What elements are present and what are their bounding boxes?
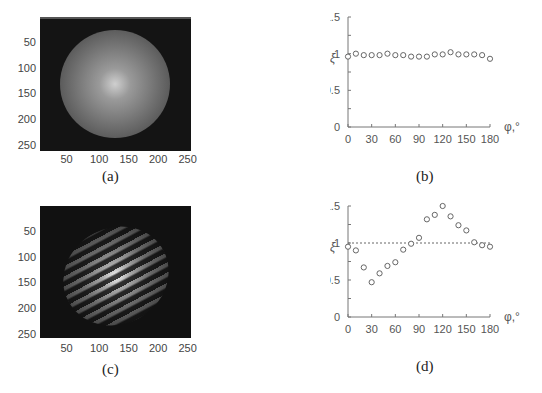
y-axis-label: ξ xyxy=(330,51,336,65)
y-tick-label: 0.5 xyxy=(330,274,340,286)
x-tick-label: 150 xyxy=(457,133,475,145)
chart-b: 00.511.50306090120150180φ,°ξ xyxy=(330,0,542,196)
caption-a: (a) xyxy=(102,168,119,185)
y-tick-label: 150 xyxy=(18,87,36,99)
data-point xyxy=(401,247,406,252)
data-point xyxy=(385,263,390,268)
intensity-image-a xyxy=(40,17,191,151)
caption-d: (d) xyxy=(416,358,434,375)
x-tick-label: 90 xyxy=(413,323,425,335)
data-point xyxy=(345,244,350,249)
data-point xyxy=(448,50,453,55)
y-tick-label: 0.5 xyxy=(330,84,340,96)
chart-d: 00.511.50306090120150180φ,°ξ xyxy=(330,190,542,393)
data-point xyxy=(472,240,477,245)
x-tick-label: 90 xyxy=(413,133,425,145)
x-tick-label: 120 xyxy=(433,133,451,145)
x-tick-label: 120 xyxy=(433,323,451,335)
data-point xyxy=(464,228,469,233)
y-tick-label: 100 xyxy=(18,251,36,263)
data-point xyxy=(385,51,390,56)
y-tick-label: 1.5 xyxy=(330,200,340,212)
data-point xyxy=(377,53,382,58)
bright-disk xyxy=(60,30,170,138)
y-axis-label: ξ xyxy=(330,240,336,254)
data-point xyxy=(432,212,437,217)
data-point xyxy=(361,53,366,58)
x-tick-label: 60 xyxy=(389,133,401,145)
data-point xyxy=(487,244,492,249)
y-tick-label: 250 xyxy=(18,328,36,340)
data-point xyxy=(393,53,398,58)
data-point xyxy=(480,53,485,58)
data-point xyxy=(424,217,429,222)
data-point xyxy=(432,52,437,57)
x-tick-label: 100 xyxy=(90,342,108,354)
x-axis-label: φ,° xyxy=(504,120,520,134)
data-point xyxy=(448,214,453,219)
fringe-disk xyxy=(46,208,186,338)
x-tick-label: 150 xyxy=(119,342,137,354)
data-point xyxy=(393,260,398,265)
y-tick-label: 0 xyxy=(334,311,340,323)
y-tick-label: 0 xyxy=(334,121,340,133)
data-point xyxy=(472,52,477,57)
data-point xyxy=(401,53,406,58)
data-point xyxy=(369,280,374,285)
data-point xyxy=(353,248,358,253)
data-point xyxy=(424,54,429,59)
x-axis-label: φ,° xyxy=(504,310,520,324)
y-tick-label: 100 xyxy=(18,62,36,74)
data-point xyxy=(377,271,382,276)
intensity-image-c xyxy=(40,206,191,338)
x-tick-label: 0 xyxy=(345,133,351,145)
panel-c: 50100150200250 50100150200250 (c) xyxy=(0,196,271,393)
data-point xyxy=(416,54,421,59)
x-tick-label: 30 xyxy=(366,323,378,335)
x-tick-label: 200 xyxy=(149,153,167,165)
x-tick-label: 50 xyxy=(60,342,72,354)
data-point xyxy=(440,52,445,57)
x-tick-label: 250 xyxy=(178,153,196,165)
y-tick-label: 1.5 xyxy=(330,11,340,23)
x-tick-label: 250 xyxy=(178,342,196,354)
data-point xyxy=(409,54,414,59)
data-point xyxy=(456,223,461,228)
caption-c: (c) xyxy=(102,361,119,378)
x-tick-label: 30 xyxy=(366,133,378,145)
x-tick-label: 180 xyxy=(481,323,499,335)
data-point xyxy=(464,52,469,57)
data-point xyxy=(416,235,421,240)
x-tick-label: 0 xyxy=(345,323,351,335)
caption-b: (b) xyxy=(416,168,434,185)
panel-a: 50100150200250 50100150200250 (a) xyxy=(0,0,271,196)
x-tick-label: 50 xyxy=(60,153,72,165)
data-point xyxy=(456,52,461,57)
y-tick-label: 50 xyxy=(24,36,36,48)
x-tick-label: 150 xyxy=(457,323,475,335)
data-point xyxy=(440,203,445,208)
data-point xyxy=(480,243,485,248)
x-tick-label: 60 xyxy=(389,323,401,335)
y-tick-label: 250 xyxy=(18,139,36,151)
data-point xyxy=(353,51,358,56)
x-tick-label: 180 xyxy=(481,133,499,145)
data-point xyxy=(409,241,414,246)
data-point xyxy=(361,265,366,270)
y-tick-label: 150 xyxy=(18,276,36,288)
data-point xyxy=(345,54,350,59)
x-tick-label: 150 xyxy=(119,153,137,165)
y-tick-label: 200 xyxy=(18,113,36,125)
x-tick-label: 200 xyxy=(149,342,167,354)
y-tick-label: 200 xyxy=(18,302,36,314)
x-tick-label: 100 xyxy=(90,153,108,165)
data-point xyxy=(487,56,492,61)
y-tick-label: 50 xyxy=(24,225,36,237)
data-point xyxy=(369,53,374,58)
